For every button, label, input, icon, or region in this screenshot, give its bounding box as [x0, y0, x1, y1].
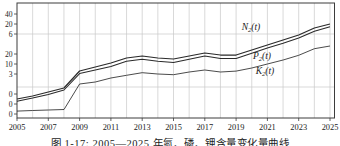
y-tick-label: 0 [9, 100, 13, 109]
x-tick-label: 2025 [322, 123, 339, 132]
y-tick-label: 6 [9, 30, 13, 39]
x-tick-label: 2021 [259, 123, 276, 132]
curve-label-k2: K2(t) [255, 66, 275, 77]
x-tick-label: 2023 [290, 123, 307, 132]
line-chart: 4020020100630200520072009201120132015201… [0, 0, 340, 135]
screenshot: { "figure": { "caption": "图 1-17: 2005—2… [0, 0, 340, 146]
y-tick-label: 0 [9, 110, 13, 119]
y-tick-label: 10 [5, 60, 13, 69]
x-tick-label: 2019 [228, 123, 245, 132]
y-tick-label: 20 [5, 20, 13, 29]
y-tick-label: 20 [5, 50, 13, 59]
x-tick-label: 2013 [134, 123, 151, 132]
figure: 4020020100630200520072009201120132015201… [0, 0, 340, 146]
x-tick-label: 2015 [165, 123, 182, 132]
y-tick-label: 0 [9, 90, 13, 99]
curve-label-n2: N2(t) [241, 22, 261, 33]
x-tick-label: 2011 [103, 123, 119, 132]
curve-label-p2: P2(t) [252, 51, 271, 62]
x-tick-label: 2009 [71, 123, 88, 132]
y-tick-label: 3 [9, 70, 13, 79]
x-tick-label: 2005 [9, 123, 26, 132]
chart-background [0, 0, 340, 135]
x-tick-label: 2007 [40, 123, 57, 132]
y-tick-label: 40 [5, 10, 13, 19]
figure-caption: 图 1-17: 2005—2025 年氮、磷、钾含量变化量曲线 [0, 135, 340, 146]
x-tick-label: 2017 [196, 123, 213, 132]
